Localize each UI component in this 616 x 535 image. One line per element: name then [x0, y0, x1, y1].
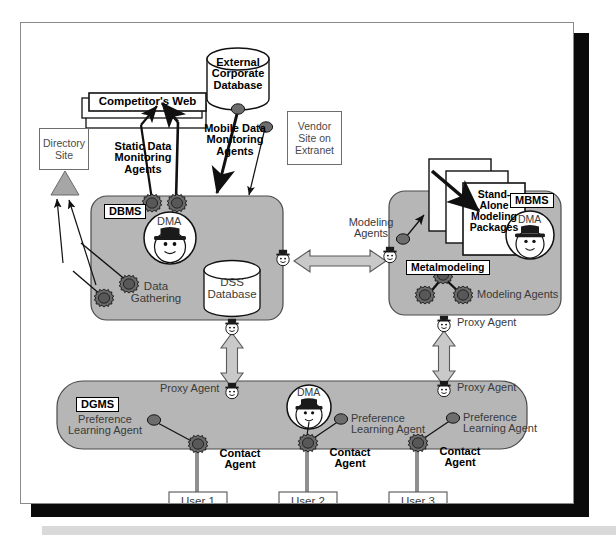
- dss-database-label: DSS Database: [203, 277, 261, 301]
- agent-marker-contact-1: [188, 435, 207, 453]
- dma-label-dbms: DMA: [157, 216, 181, 227]
- agent-marker-gathering-2: [94, 289, 113, 307]
- subsystem-label-dgms: DGMS: [76, 397, 119, 412]
- preference-learning-agent-label-1: Preference Learning Agent: [59, 414, 151, 437]
- user-label-2: User 2: [279, 496, 337, 504]
- page-bottom-bar: [42, 526, 616, 535]
- data-gathering-label: Data Gathering: [120, 281, 192, 305]
- proxy-agent-label-dgms-left: Proxy Agent: [160, 383, 219, 394]
- dma-label-dgms: DMA: [297, 387, 320, 398]
- proxy-agent-mbms-bottom: [437, 316, 450, 332]
- modeling-agents-left-label: Modeling Agents: [341, 217, 401, 240]
- directory-site-box: Directory Site: [39, 128, 89, 170]
- agent-marker-modeling-r2: [453, 286, 472, 304]
- vendor-site-label: Vendor Site on Extranet: [295, 120, 334, 156]
- static-data-monitoring-agents-label: Static Data Monitoring Agents: [99, 141, 187, 175]
- agent-marker-preference-2: [334, 414, 347, 424]
- proxy-agent-label-mbms-bottom: Proxy Agent: [457, 317, 516, 328]
- directory-site-label: Directory Site: [43, 137, 85, 161]
- preference-learning-agent-label-2: Preference Learning Agent: [351, 413, 443, 436]
- diagram-frame: External Corporate Database Competitor's…: [20, 22, 574, 504]
- competitors-web-label: Competitor's Web: [91, 96, 204, 108]
- agent-marker-preference-3: [446, 413, 459, 423]
- vendor-site-box: Vendor Site on Extranet: [287, 111, 342, 165]
- contact-agent-label-1: Contact Agent: [213, 448, 267, 471]
- agent-marker-contact-2: [298, 434, 317, 452]
- contact-agent-label-3: Contact Agent: [433, 446, 487, 469]
- proxy-agent-dbms-bottom: [225, 319, 238, 335]
- agent-marker-static-2: [167, 194, 186, 212]
- agent-marker-modeling-r1: [415, 286, 434, 304]
- user-label-1: User 1: [169, 496, 227, 504]
- user-label-3: User 3: [389, 496, 447, 504]
- subsystem-label-dbms: DBMS: [104, 204, 146, 219]
- modeling-agents-right-label: Modeling Agents: [477, 289, 558, 300]
- proxy-agent-label-dgms-right: Proxy Agent: [457, 382, 516, 393]
- mobile-data-monitoring-agents-label: Mobile Data Monitoring Agents: [187, 123, 283, 157]
- agent-marker-mobile-db: [231, 104, 244, 114]
- contact-agent-label-2: Contact Agent: [323, 447, 377, 470]
- preference-learning-agent-label-3: Preference Learning Agent: [463, 412, 555, 435]
- subsystem-label-mbms: MBMS: [510, 193, 554, 208]
- metamodeling-label: Metalmodeling: [406, 260, 490, 275]
- external-corporate-database-label: External Corporate Database: [200, 57, 276, 91]
- agent-marker-contact-3: [408, 434, 427, 452]
